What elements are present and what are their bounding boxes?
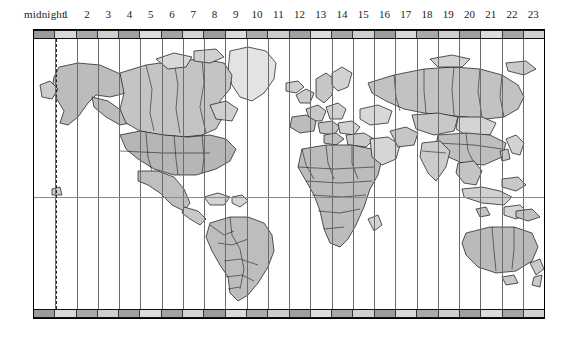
hour-label-5: 5 [148,8,154,20]
hour-strip-cell [119,310,140,317]
hour-strip-cell [375,31,396,38]
top-hour-strip [34,30,544,39]
hour-label-9: 9 [233,8,239,20]
hour-strip-cell [524,31,544,38]
hour-strip-cell [503,31,524,38]
land-europe [290,67,392,147]
hour-label-1: 1 [63,8,69,20]
bottom-hour-strip [34,309,544,318]
hour-strip-cell [55,310,76,317]
timezone-gridline [374,39,375,309]
hour-strip-cell [524,310,544,317]
hour-strip-cell [55,31,76,38]
hour-label-22: 22 [506,8,517,20]
international-date-line [56,39,57,309]
hour-label-16: 16 [379,8,390,20]
hour-strip-cell [503,310,524,317]
timezone-gridline [289,39,290,309]
land-russia [368,55,536,119]
hour-label-11: 11 [273,8,284,20]
hour-strip-cell [268,31,289,38]
hour-strip-cell [34,31,55,38]
timezone-gridline [523,39,524,309]
hour-strip-cell [247,31,268,38]
hour-strip-cell [460,310,481,317]
land-united-states [120,131,236,175]
hour-label-6: 6 [169,8,175,20]
land-new-zealand [530,259,544,287]
hour-label-7: 7 [191,8,197,20]
land-south-america [206,217,274,301]
timezone-gridline [162,39,163,309]
hour-label-8: 8 [212,8,218,20]
timezone-gridline [502,39,503,309]
hour-strip-cell [247,310,268,317]
land-alaska [40,63,130,125]
timezone-gridline [204,39,205,309]
timezone-gridline [183,39,184,309]
hour-strip-cell [140,310,161,317]
hour-strip-cell [162,31,183,38]
hour-label-19: 19 [443,8,454,20]
hour-label-10: 10 [251,8,262,20]
hour-strip-cell [98,31,119,38]
hour-strip-cell [439,310,460,317]
hour-label-14: 14 [336,8,347,20]
land-middle-east [370,127,418,165]
timezone-gridline [395,39,396,309]
timezone-gridline [247,39,248,309]
timezone-gridline [332,39,333,309]
hour-strip-cell [396,31,417,38]
timezone-gridline [310,39,311,309]
hour-label-4: 4 [127,8,133,20]
timezone-gridline [459,39,460,309]
timezone-gridline [417,39,418,309]
hour-label-15: 15 [358,8,369,20]
hour-strip-cell [353,31,374,38]
timezone-map-page: midnight12345678910111213141516171819202… [0,0,572,340]
timezone-gridline [353,39,354,309]
hour-strip-cell [460,31,481,38]
hour-label-18: 18 [421,8,432,20]
land-papua-new-guinea [516,209,540,221]
equator-line [34,197,544,198]
hour-strip-cell [417,310,438,317]
timezone-gridline [480,39,481,309]
hour-strip-cell [353,310,374,317]
hour-strip-cell [375,310,396,317]
timezone-gridline [119,39,120,309]
hour-label-17: 17 [400,8,411,20]
land-canada [120,49,238,137]
hour-strip-cell [311,310,332,317]
hour-strip-cell [77,31,98,38]
land-india [420,141,450,181]
hour-strip-cell [290,31,311,38]
hour-strip-cell [183,31,204,38]
hour-strip-cell [204,31,225,38]
timezone-gridline [98,39,99,309]
hour-strip-cell [140,31,161,38]
land-pacific-islands [52,187,490,217]
hour-label-20: 20 [464,8,475,20]
hour-label-23: 23 [528,8,539,20]
timezone-gridline [225,39,226,309]
land-australia [462,227,538,285]
timezone-gridline [438,39,439,309]
hour-strip-cell [268,310,289,317]
hour-label-13: 13 [315,8,326,20]
hour-strip-cell [162,310,183,317]
hour-label-midnight: midnight [24,8,65,20]
hour-strip-cell [226,31,247,38]
hour-label-12: 12 [294,8,305,20]
hour-strip-cell [311,31,332,38]
timezone-gridline [140,39,141,309]
hour-strip-cell [332,31,353,38]
hour-axis: midnight12345678910111213141516171819202… [0,8,572,26]
map-frame [33,29,545,319]
hour-strip-cell [77,310,98,317]
hour-strip-cell [481,31,502,38]
hour-strip-cell [290,310,311,317]
hour-strip-cell [439,31,460,38]
hour-strip-cell [396,310,417,317]
hour-strip-cell [332,310,353,317]
